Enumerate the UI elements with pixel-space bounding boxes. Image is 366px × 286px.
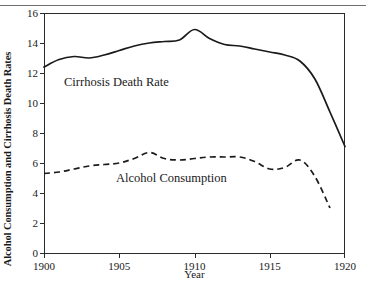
y-axis-title: Alcohol Consumption and Cirrhosis Death … (0, 16, 16, 286)
top-divider-rule (0, 5, 366, 6)
y-tick-label: 6 (33, 157, 39, 169)
y-tick-label: 0 (33, 247, 39, 259)
y-tick-label: 2 (33, 217, 39, 229)
y-tick-label: 10 (27, 97, 38, 109)
y-tick-label: 12 (27, 67, 38, 79)
y-tick-label: 4 (33, 187, 39, 199)
y-tick-label: 16 (27, 7, 38, 19)
x-axis-title: Year (44, 268, 345, 280)
plot-area: 0246810121416 19001905191019151920 Cirrh… (44, 13, 345, 253)
y-tick-label: 14 (27, 37, 38, 49)
annotation-cirrhosis-death-rate: Cirrhosis Death Rate (64, 75, 169, 90)
series-canvas (44, 13, 345, 254)
annotation-alcohol-consumption: Alcohol Consumption (116, 171, 227, 186)
y-tick-label: 8 (33, 127, 39, 139)
